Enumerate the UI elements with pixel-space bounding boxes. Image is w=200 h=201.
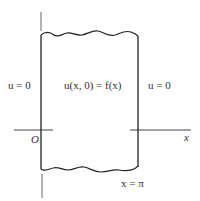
- right-boundary-label: u = 0: [148, 79, 171, 91]
- right-edge-label: x = π: [121, 177, 144, 189]
- x-axis-label: x: [183, 131, 189, 143]
- origin-label: O: [31, 133, 39, 145]
- left-boundary-label: u = 0: [8, 79, 31, 91]
- strip-diagram: u = 0 u(x, 0) = f(x) u = 0 O x x = π: [0, 0, 200, 201]
- strip-bottom-wavy-break: [41, 166, 138, 172]
- initial-condition-label: u(x, 0) = f(x): [64, 79, 122, 92]
- strip-top-wavy-break: [41, 31, 138, 36]
